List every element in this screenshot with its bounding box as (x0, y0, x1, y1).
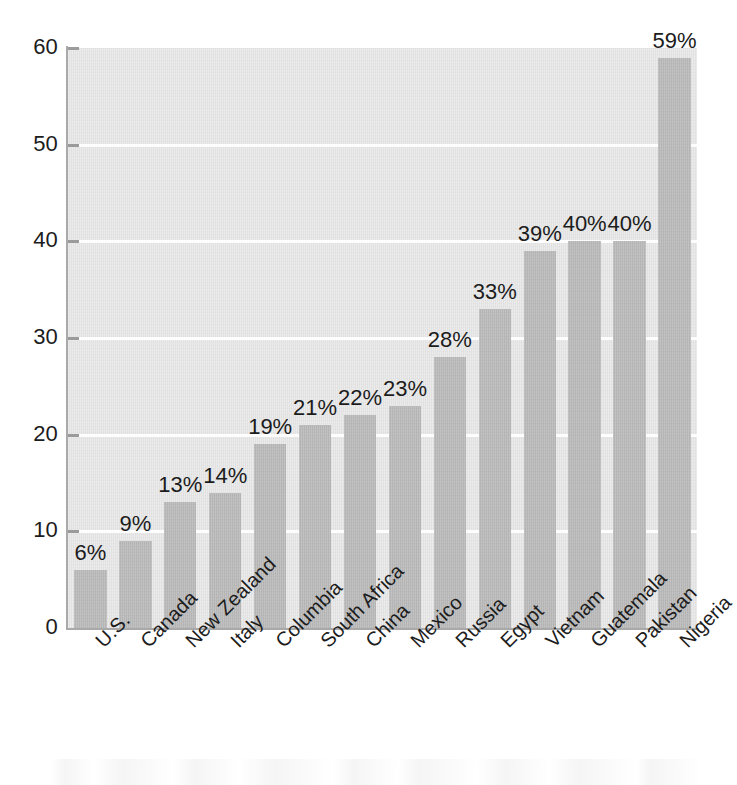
bar-slot[interactable]: 9% (113, 48, 158, 628)
bar-value-label: 6% (68, 540, 113, 566)
bar-slot[interactable]: 28% (427, 48, 472, 628)
y-axis-tick-label: 10 (6, 517, 58, 543)
y-axis-tick-labels: 0102030405060 (0, 0, 58, 785)
bar[interactable] (74, 570, 106, 628)
bar-value-label: 22% (338, 385, 383, 411)
bar-value-label: 9% (113, 511, 158, 537)
bar-value-label: 13% (158, 472, 203, 498)
bar-slot[interactable]: 40% (607, 48, 652, 628)
bar-value-label: 59% (652, 28, 697, 54)
bar-slot[interactable]: 39% (517, 48, 562, 628)
bar[interactable] (479, 309, 511, 628)
bar-value-label: 39% (517, 221, 562, 247)
bar-slot[interactable]: 59% (652, 48, 697, 628)
bar[interactable] (434, 357, 466, 628)
y-axis-tick-label: 0 (6, 614, 58, 640)
bar-value-label: 33% (472, 279, 517, 305)
bar[interactable] (613, 241, 645, 628)
y-axis-tick-label: 60 (6, 34, 58, 60)
bar-slot[interactable]: 40% (562, 48, 607, 628)
bar-slot[interactable]: 6% (68, 48, 113, 628)
bar-slot[interactable]: 19% (248, 48, 293, 628)
bar-value-label: 28% (427, 327, 472, 353)
y-axis-tick-label: 20 (6, 421, 58, 447)
bar[interactable] (254, 444, 286, 628)
bar-value-label: 40% (607, 211, 652, 237)
x-axis-category-labels: U.S.CanadaNew ZealandItalyColumbiaSouth … (68, 636, 697, 785)
bar[interactable] (524, 251, 556, 628)
bar-value-label: 40% (562, 211, 607, 237)
bar-slot[interactable]: 21% (293, 48, 338, 628)
bar-value-label: 14% (203, 463, 248, 489)
bar-slot[interactable]: 13% (158, 48, 203, 628)
y-axis-tick-label: 30 (6, 324, 58, 350)
bar-slot[interactable]: 14% (203, 48, 248, 628)
y-axis-tick-label: 50 (6, 131, 58, 157)
bar-slot[interactable]: 33% (472, 48, 517, 628)
y-axis-tick-label: 40 (6, 227, 58, 253)
bar[interactable] (568, 241, 600, 628)
bar-slot[interactable]: 23% (383, 48, 428, 628)
bar-value-label: 23% (383, 376, 428, 402)
bar[interactable] (389, 406, 421, 628)
bar-value-label: 21% (293, 395, 338, 421)
bar-value-label: 19% (248, 414, 293, 440)
bar[interactable] (658, 58, 690, 628)
bar-slot[interactable]: 22% (338, 48, 383, 628)
